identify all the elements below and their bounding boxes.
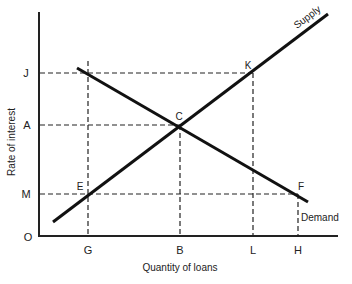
point-e-label: E <box>77 181 84 192</box>
point-k-label: K <box>245 60 252 71</box>
x-tick-b: B <box>176 244 183 256</box>
x-tick-l: L <box>250 244 256 256</box>
origin-label: O <box>24 231 33 243</box>
supply-demand-diagram: J A M O G B L H C K E F Supply Demand Ra… <box>0 0 352 284</box>
point-c-label: C <box>175 111 182 122</box>
x-axis-title: Quantity of loans <box>142 262 217 273</box>
y-tick-a: A <box>23 119 31 131</box>
y-tick-m: M <box>21 188 30 200</box>
x-tick-g: G <box>84 244 93 256</box>
guide-lines <box>40 61 298 236</box>
y-axis-title: Rate of interest <box>6 108 17 176</box>
y-tick-j: J <box>23 67 29 79</box>
x-tick-h: H <box>294 244 302 256</box>
supply-label: Supply <box>292 3 323 30</box>
demand-label: Demand <box>301 212 339 223</box>
demand-curve <box>77 68 308 202</box>
point-f-label: F <box>298 181 304 192</box>
